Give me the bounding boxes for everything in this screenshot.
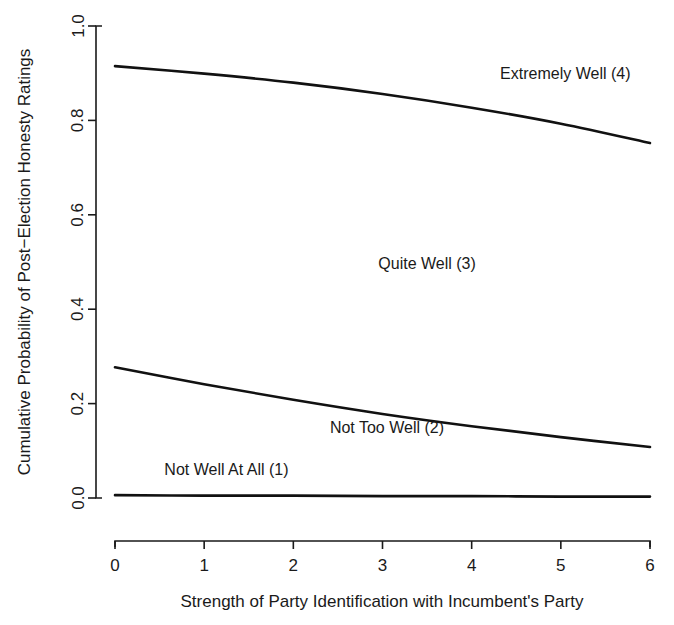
x-tick-label: 5 [556, 556, 565, 575]
x-tick-label: 0 [110, 556, 119, 575]
x-tick-label: 2 [289, 556, 298, 575]
y-tick-label: 0.8 [69, 109, 88, 133]
chart-region-label-1: Extremely Well (4) [500, 65, 630, 82]
x-tick-label: 3 [378, 556, 387, 575]
chart-region-label-4: Not Well At All (1) [164, 461, 288, 478]
x-tick-label: 4 [467, 556, 476, 575]
chart-region-label-3: Not Too Well (2) [330, 419, 444, 436]
y-tick-label: 0.6 [69, 203, 88, 227]
x-tick-label: 1 [199, 556, 208, 575]
chart-canvas: 0.00.20.40.60.81.0 Cumulative Probabilit… [0, 0, 674, 625]
y-tick-label: 0.2 [69, 392, 88, 416]
x-tick-label: 6 [645, 556, 654, 575]
chart-line-series-3 [115, 495, 650, 496]
x-axis-title: Strength of Party Identification with In… [181, 592, 584, 611]
chart-region-label-2: Quite Well (3) [378, 255, 476, 272]
y-tick-label: 0.4 [69, 297, 88, 321]
chart-background [0, 0, 674, 625]
y-axis-title: Cumulative Probability of Post−Election … [15, 49, 34, 476]
y-tick-label: 1.0 [69, 14, 88, 38]
chart-figure: 0.00.20.40.60.81.0 Cumulative Probabilit… [0, 0, 674, 625]
y-tick-label: 0.0 [69, 486, 88, 510]
